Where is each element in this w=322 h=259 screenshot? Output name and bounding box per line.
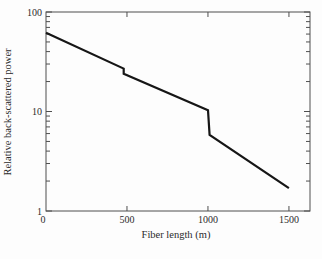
y-axis-tick-label: 1	[37, 206, 42, 217]
y-axis-tick-label: 100	[27, 7, 42, 18]
x-axis-tick-label: 1000	[198, 214, 218, 225]
x-axis-tick-label: 1500	[279, 214, 299, 225]
x-axis-tick-label: 500	[119, 214, 134, 225]
x-axis-title: Fiber length (m)	[142, 229, 211, 241]
backscatter-chart: Fiber length (m) Relative back-scattered…	[0, 0, 322, 259]
y-axis-title: Relative back-scattered power	[2, 48, 13, 176]
series-line-relative-back-scattered-power	[46, 33, 289, 188]
plot-frame	[46, 12, 310, 211]
y-axis-tick-label: 10	[32, 106, 42, 117]
backscatter-figure: Fiber length (m) Relative back-scattered…	[0, 0, 322, 259]
